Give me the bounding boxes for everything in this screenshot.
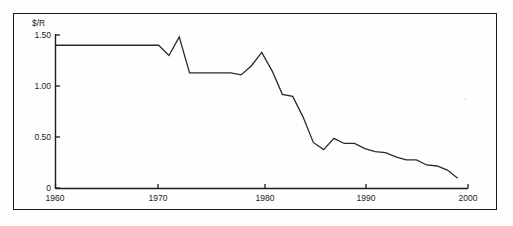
- x-tick-label-1960: 1960: [46, 193, 65, 203]
- x-tick-label-1970: 1970: [149, 193, 168, 203]
- y-tick-label-0.50: 0.50: [34, 132, 51, 142]
- line-chart: 1.50 1.00 0.50 0 $/R 1960 1970 1980 1990…: [0, 0, 513, 226]
- y-tick-label-1.50: 1.50: [34, 30, 51, 40]
- y-tick-label-0: 0: [46, 183, 51, 193]
- x-tick-label-1990: 1990: [357, 193, 376, 203]
- x-tick-label-1980: 1980: [256, 193, 275, 203]
- y-tick-label-1.00: 1.00: [34, 81, 51, 91]
- figure-page: 1.50 1.00 0.50 0 $/R 1960 1970 1980 1990…: [0, 0, 513, 226]
- data-series-line: [56, 37, 458, 178]
- y-axis-unit-label: $/R: [32, 18, 45, 28]
- x-tick-label-2000: 2000: [459, 193, 478, 203]
